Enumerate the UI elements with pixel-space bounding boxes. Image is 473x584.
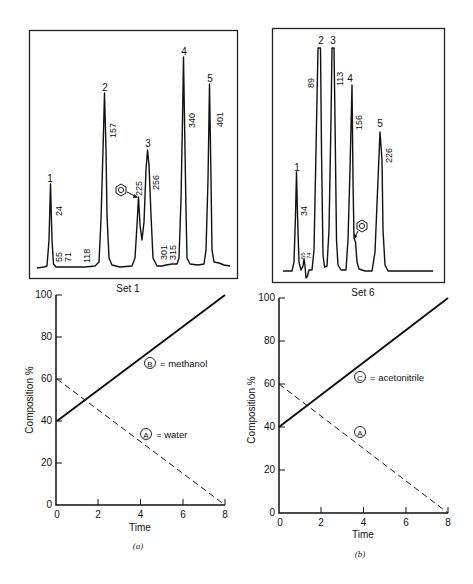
retention-label: 24: [54, 206, 64, 216]
gradient-plot-b: 100 80 60 40 20 0 0 2 4 6 8 Time Composi…: [246, 292, 451, 559]
x-tick-label: 0: [277, 517, 283, 528]
y-axis-label: Composition %: [246, 376, 257, 443]
legend-letter: C: [357, 374, 363, 383]
x-tick-label: 6: [180, 509, 186, 520]
y-tick-label: 20: [41, 457, 53, 468]
benzene-ring-icon: [354, 220, 367, 239]
retention-label: 226: [384, 148, 394, 163]
retention-label: 74: [306, 252, 312, 259]
peak-number: 5: [377, 118, 383, 129]
series-line-water: [279, 384, 448, 513]
x-tick-label: 8: [222, 509, 228, 520]
peak-number: 5: [207, 73, 213, 84]
retention-label: 225: [134, 181, 144, 196]
legend-label-methanol: = methanol: [160, 358, 207, 369]
y-tick-label: 60: [264, 378, 276, 389]
x-tick-label: 4: [138, 509, 144, 520]
peak-number: 4: [347, 73, 353, 84]
chromatogram-title: Set 1: [116, 283, 140, 294]
peak-number: 1: [47, 173, 53, 184]
y-tick-label: 0: [269, 507, 275, 518]
figure-caption: (a): [133, 541, 144, 551]
y-tick-label: 60: [41, 373, 53, 384]
legend-letter: A: [143, 431, 149, 440]
retention-label: 340: [187, 113, 197, 128]
series-line-acetonitrile: [279, 298, 448, 427]
legend-label-water: = water: [156, 429, 187, 440]
axes: [56, 295, 225, 505]
y-tick-label: 100: [35, 289, 52, 300]
x-tick-label: 8: [445, 517, 451, 528]
y-tick-label: 40: [41, 415, 53, 426]
retention-label: 256: [151, 175, 161, 190]
peak-number: 2: [102, 82, 108, 93]
y-ticks: [56, 295, 62, 463]
axes: [279, 298, 448, 513]
y-axis-label: Composition %: [24, 366, 35, 433]
y-tick-label: 80: [41, 331, 53, 342]
y-tick-label: 100: [258, 292, 275, 303]
chromatogram-set-1: 1 2 3 4 5 24 55 71 118 157 225 256 301 3…: [30, 31, 238, 295]
x-ticks: [98, 499, 225, 505]
figure-caption: (b): [355, 549, 366, 559]
peak-number: 3: [145, 138, 151, 149]
figure: 1 2 3 4 5 24 55 71 118 157 225 256 301 3…: [0, 0, 473, 584]
x-tick-label: 6: [403, 517, 409, 528]
y-tick-label: 20: [264, 464, 276, 475]
x-tick-label: 2: [95, 509, 101, 520]
legend-label-acetonitrile: = acetonitrile: [370, 372, 424, 383]
series-line-water: [57, 379, 225, 505]
x-axis-label: Time: [352, 529, 374, 540]
retention-label: 157: [108, 123, 118, 138]
retention-label: 71: [63, 252, 73, 262]
retention-label: 113: [335, 72, 345, 86]
peak-number: 3: [330, 35, 336, 46]
y-tick-label: 80: [264, 335, 276, 346]
y-tick-label: 0: [46, 499, 52, 510]
chromatogram-set-6: 1 2 3 4 5 34 55 74 89 113 156 226 Set 6: [273, 29, 445, 299]
retention-label: 156: [354, 115, 364, 130]
x-tick-label: 0: [54, 509, 60, 520]
x-axis-label: Time: [129, 522, 151, 533]
retention-label: 315: [168, 245, 178, 260]
x-tick-label: 2: [318, 517, 324, 528]
x-tick-label: 4: [361, 517, 367, 528]
y-tick-label: 40: [264, 421, 276, 432]
retention-label: 89: [306, 78, 316, 88]
legend-letter: B: [147, 360, 152, 369]
chromatogram-trace: [37, 57, 230, 268]
retention-label: 34: [299, 206, 309, 216]
legend-letter: A: [357, 429, 363, 438]
gradient-plot-a: 100 80 60 40 20 0 0 2 4 6 8 Time Composi…: [24, 289, 228, 551]
chromatogram-title: Set 6: [351, 287, 375, 298]
retention-label: 401: [215, 112, 225, 127]
peak-number: 2: [318, 35, 324, 46]
peak-number: 4: [181, 46, 187, 57]
peak-number: 1: [294, 162, 300, 173]
retention-label: 118: [82, 249, 92, 263]
y-ticks: [279, 298, 285, 470]
x-ticks: [321, 507, 448, 513]
